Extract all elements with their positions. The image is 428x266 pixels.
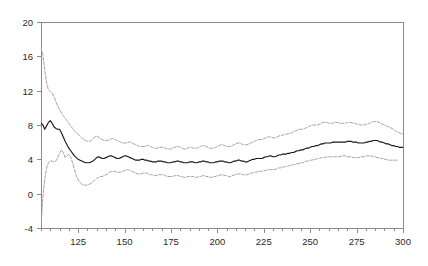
x-tick-label: 150 (117, 236, 133, 247)
y-tick-label: 16 (22, 51, 33, 62)
x-tick-label: 225 (256, 236, 272, 247)
x-tick-label: 175 (163, 236, 179, 247)
y-tick-label: 8 (28, 120, 33, 131)
x-tick-label: 300 (395, 236, 411, 247)
y-tick-label: 20 (22, 17, 33, 28)
x-tick-label: 125 (70, 236, 86, 247)
y-tick-label: 4 (28, 154, 33, 165)
y-tick-label: -4 (25, 223, 33, 234)
y-tick-label: 12 (22, 86, 33, 97)
x-tick-label: 200 (209, 236, 225, 247)
y-tick-label: 0 (28, 189, 33, 200)
chart-figure: -4048121620 125150175200225250275300 (0, 0, 428, 266)
x-tick-label: 250 (302, 236, 318, 247)
chart-background (0, 0, 428, 266)
confidence-band-chart: -4048121620 125150175200225250275300 (0, 0, 428, 266)
x-tick-label: 275 (349, 236, 365, 247)
